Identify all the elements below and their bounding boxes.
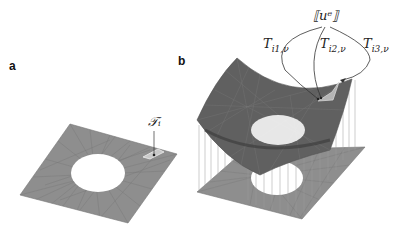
edge-label-1-subscript: i1,ν — [272, 44, 289, 54]
plate-a — [20, 124, 177, 223]
panel-label-b: b — [178, 54, 185, 68]
hole-b-surface — [251, 115, 305, 145]
edge-label-1-base: T — [263, 36, 272, 51]
edge-label-1: Ti1,ν — [263, 36, 289, 54]
edge-label-3-subscript: i3,ν — [372, 44, 389, 54]
hole-a — [71, 154, 125, 192]
edge-label-2: Ti2,ν — [320, 36, 346, 54]
edge-label-3-base: T — [363, 36, 372, 51]
edge-label-2-base: T — [320, 36, 329, 51]
panel-label-a: a — [9, 59, 16, 73]
edge-label-3: Ti3,ν — [363, 36, 389, 54]
element-label-a: 𝒯ᵢ — [148, 114, 161, 130]
pointer-dot-a — [153, 154, 156, 157]
edge-label-2-subscript: i2,ν — [329, 44, 346, 54]
jump-label: ⟦uᵉ⟧ — [313, 8, 338, 23]
